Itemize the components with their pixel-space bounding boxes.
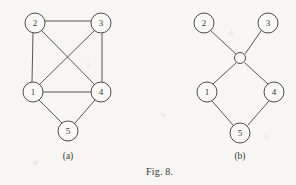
panel-b-sublabel: (b)	[234, 151, 245, 162]
node-a-2-label: 2	[33, 18, 38, 28]
figure-canvas: 2 3 1 4 5 (a)	[0, 0, 296, 185]
node-b-5[interactable]: 5	[230, 123, 250, 143]
panel-a: 2 3 1 4 5 (a)	[23, 13, 111, 162]
edge-a-4-5	[75, 100, 95, 123]
edge-b-2-hub	[211, 31, 236, 54]
node-b-2[interactable]: 2	[194, 13, 214, 33]
node-b-1[interactable]: 1	[197, 82, 217, 102]
figure-caption: Fig. 8.	[146, 166, 173, 177]
node-a-3[interactable]: 3	[91, 13, 111, 33]
node-b-4[interactable]: 4	[264, 82, 284, 102]
edge-b-4-5	[248, 101, 269, 125]
edge-b-3-hub	[245, 31, 261, 54]
node-b-2-label: 2	[202, 18, 207, 28]
edge-a-2-1	[32, 33, 33, 82]
panel-a-sublabel: (a)	[63, 151, 74, 162]
edge-b-hub-4	[245, 63, 268, 84]
figure-page: 2 3 1 4 5 (a)	[0, 0, 296, 185]
edge-b-1-5	[212, 101, 233, 125]
node-a-5-label: 5	[66, 126, 71, 136]
node-b-3[interactable]: 3	[258, 13, 278, 33]
edge-a-1-5	[39, 100, 62, 123]
node-a-4[interactable]: 4	[91, 82, 111, 102]
panel-b: 2 3 1 4 5 (b)	[194, 13, 284, 162]
node-b-hub[interactable]	[235, 53, 246, 64]
node-b-3-label: 3	[266, 18, 271, 28]
node-a-1[interactable]: 1	[23, 82, 43, 102]
node-a-5[interactable]: 5	[58, 121, 78, 141]
edge-b-hub-1	[213, 63, 236, 84]
panel-a-edges	[32, 21, 102, 123]
node-a-1-label: 1	[31, 87, 36, 97]
node-a-4-label: 4	[99, 87, 104, 97]
panel-b-edges	[211, 31, 269, 125]
node-b-hub-circle	[235, 53, 246, 64]
node-b-1-label: 1	[205, 87, 210, 97]
node-a-3-label: 3	[99, 18, 104, 28]
node-b-4-label: 4	[272, 87, 277, 97]
node-b-5-label: 5	[238, 128, 243, 138]
node-a-2[interactable]: 2	[25, 13, 45, 33]
